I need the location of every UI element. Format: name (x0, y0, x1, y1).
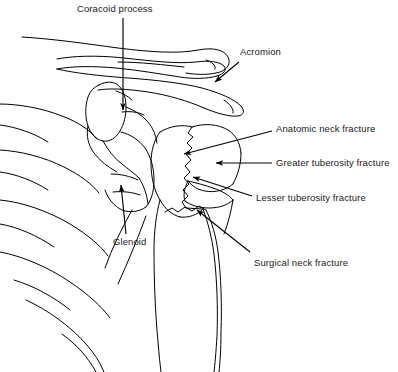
clavicle-outline (22, 37, 229, 78)
label-acromion: Acromion (240, 47, 281, 57)
humeral-shaft-outline (154, 200, 233, 372)
anatomical-figure: Coracoid process Acromion Anatomic neck … (0, 0, 398, 372)
label-lesser-tuberosity-fracture: Lesser tuberosity fracture (256, 193, 366, 203)
leader-lesser-tuberosity-fracture (193, 177, 252, 196)
leader-anatomic-neck-fracture (184, 131, 272, 154)
glenoid-outline (105, 132, 154, 212)
label-surgical-neck-fracture: Surgical neck fracture (254, 258, 348, 268)
label-coracoid-process: Coracoid process (77, 4, 153, 14)
leader-surgical-neck-fracture (197, 210, 250, 252)
shoulder-line-drawing (0, 0, 398, 372)
scapula-body-outline (87, 107, 157, 204)
label-glenoid: Glenoid (113, 237, 146, 247)
bone-outlines (0, 37, 243, 372)
anatomic-neck-fracture-line (182, 127, 203, 209)
greater-tuberosity-outline (188, 125, 241, 192)
label-anatomic-neck-fracture: Anatomic neck fracture (276, 124, 375, 134)
label-greater-tuberosity-fracture: Greater tuberosity fracture (276, 158, 390, 168)
